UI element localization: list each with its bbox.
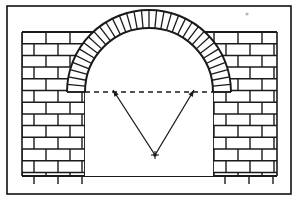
voussoir-ring xyxy=(67,10,231,176)
arch-diagram-figure xyxy=(0,0,298,200)
opening-fill xyxy=(85,28,213,176)
scan-speck xyxy=(245,12,248,15)
arch-diagram-canvas xyxy=(0,0,298,200)
